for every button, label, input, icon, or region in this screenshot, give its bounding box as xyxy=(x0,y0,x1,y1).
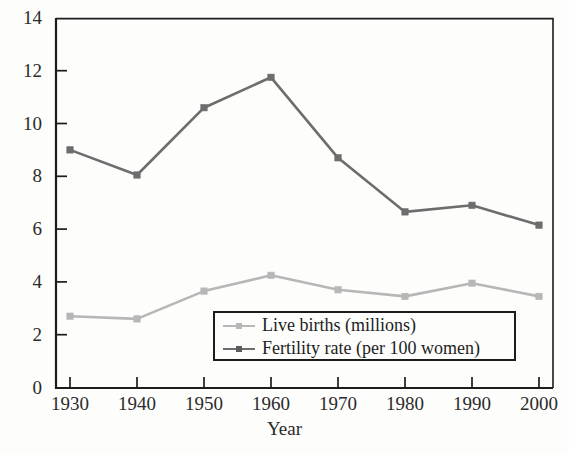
x-tick-label: 1980 xyxy=(372,394,438,413)
y-tick-label: 6 xyxy=(8,219,42,238)
x-tick-label: 1950 xyxy=(171,394,237,413)
y-tick-label: 2 xyxy=(8,325,42,344)
legend-item-fertility-rate: Fertility rate (per 100 women) xyxy=(223,337,480,360)
x-tick-label: 2000 xyxy=(506,394,569,413)
x-tick-label: 1940 xyxy=(104,394,170,413)
x-axis-title: Year xyxy=(0,418,569,440)
x-tick-label: 1960 xyxy=(238,394,304,413)
legend-swatch-fertility-rate xyxy=(223,343,255,355)
y-tick-label: 10 xyxy=(8,114,42,133)
y-tick-label: 12 xyxy=(8,61,42,80)
y-tick-label: 4 xyxy=(8,272,42,291)
x-tick-label: 1990 xyxy=(439,394,505,413)
chart-legend: Live births (millions) Fertility rate (p… xyxy=(213,311,516,361)
y-tick-label: 8 xyxy=(8,166,42,185)
x-tick-label: 1970 xyxy=(305,394,371,413)
x-tick-label: 1930 xyxy=(37,394,103,413)
legend-label-fertility-rate: Fertility rate (per 100 women) xyxy=(262,338,480,359)
legend-item-live-births: Live births (millions) xyxy=(223,314,416,337)
y-tick-label: 14 xyxy=(8,8,42,27)
legend-label-live-births: Live births (millions) xyxy=(262,315,416,336)
legend-swatch-live-births xyxy=(223,320,255,332)
line-chart-plot xyxy=(0,0,569,454)
data-series-group xyxy=(67,74,542,322)
chart-figure: 02468101214 1930194019501960197019801990… xyxy=(0,0,569,454)
